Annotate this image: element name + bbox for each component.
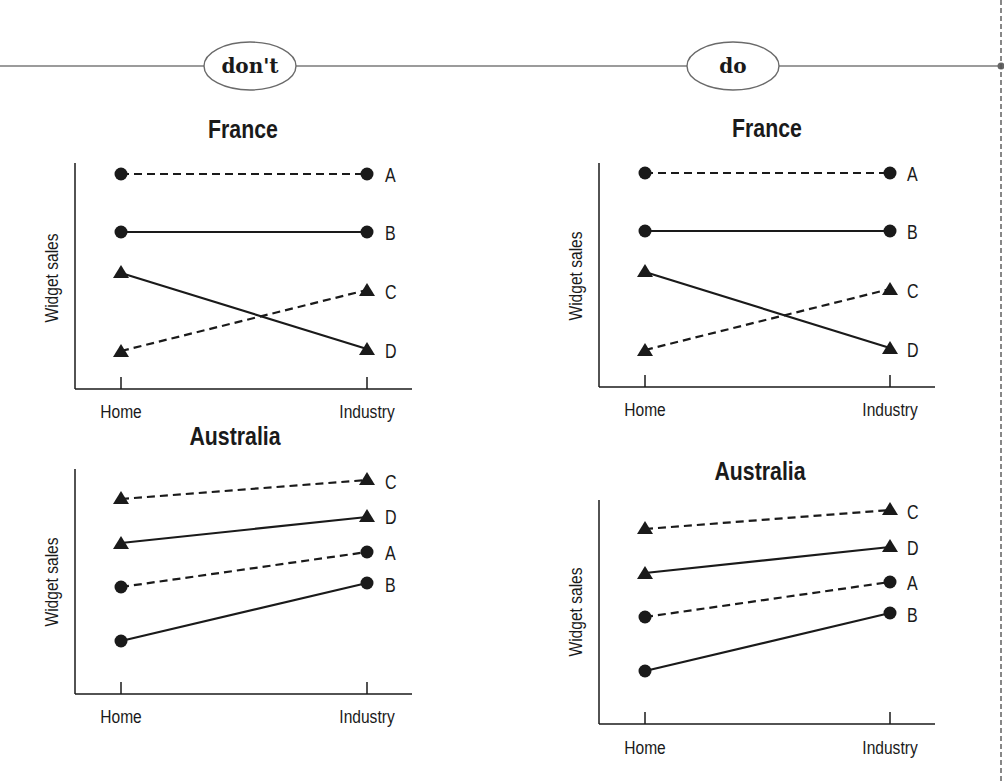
x-tick-label-home: Home — [624, 399, 666, 421]
series-label-b: B — [907, 221, 918, 243]
circle-marker-icon — [884, 576, 897, 589]
figure-canvas: don't do France Widget sales Home Indust… — [0, 0, 1004, 781]
y-axis-label: Widget sales — [565, 567, 587, 656]
circle-marker-icon — [361, 577, 374, 590]
circle-marker-icon — [639, 665, 652, 678]
x-tick-label-industry: Industry — [339, 706, 395, 728]
series-d-line — [645, 272, 890, 348]
series-label-a: A — [907, 572, 918, 594]
circle-marker-icon — [639, 225, 652, 238]
series-c-line — [645, 510, 890, 529]
do-australia-chart: Australia Widget sales Home Industry C D… — [565, 456, 935, 758]
series-label-a: A — [385, 542, 396, 564]
y-axis-label: Widget sales — [41, 537, 63, 626]
series-label-d: D — [907, 537, 919, 559]
series-label-a: A — [907, 163, 918, 185]
chart-title: France — [208, 114, 278, 144]
do-badge: do — [687, 42, 779, 90]
circle-marker-icon — [361, 546, 374, 559]
circle-marker-icon — [115, 635, 128, 648]
triangle-marker-icon — [882, 282, 898, 295]
x-tick-label-home: Home — [624, 737, 666, 759]
chart-title: France — [732, 113, 802, 143]
series-c-line — [121, 480, 367, 499]
series-c-line — [645, 289, 890, 350]
series-d-line — [121, 517, 367, 543]
series-label-c: C — [385, 471, 397, 493]
circle-marker-icon — [361, 168, 374, 181]
circle-marker-icon — [884, 225, 897, 238]
series-c-line — [121, 290, 367, 351]
dont-france-chart: France Widget sales Home Industry A B D … — [41, 114, 412, 422]
header-rule — [0, 63, 1004, 70]
series-label-d: D — [385, 506, 397, 528]
x-tick-label-industry: Industry — [862, 737, 918, 759]
x-tick-label-industry: Industry — [339, 401, 395, 423]
circle-marker-icon — [115, 581, 128, 594]
series-label-c: C — [385, 281, 397, 303]
series-label-c: C — [907, 501, 919, 523]
series-a-line — [121, 552, 367, 587]
series-label-d: D — [907, 339, 919, 361]
y-axis-label: Widget sales — [41, 233, 63, 322]
dont-badge: don't — [204, 42, 296, 90]
series-label-b: B — [385, 222, 396, 244]
x-tick-label-industry: Industry — [862, 399, 918, 421]
y-axis-label: Widget sales — [565, 231, 587, 320]
x-tick-label-home: Home — [100, 401, 142, 423]
triangle-marker-icon — [359, 342, 375, 355]
circle-marker-icon — [639, 611, 652, 624]
dont-label: don't — [221, 54, 279, 78]
series-label-a: A — [385, 164, 396, 186]
series-b-line — [645, 613, 890, 671]
series-label-b: B — [907, 604, 918, 626]
series-d-line — [645, 547, 890, 573]
series-label-c: C — [907, 280, 919, 302]
triangle-marker-icon — [882, 502, 898, 515]
triangle-marker-icon — [359, 283, 375, 296]
triangle-marker-icon — [882, 341, 898, 354]
do-label: do — [719, 54, 746, 78]
circle-marker-icon — [115, 168, 128, 181]
triangle-marker-icon — [637, 264, 653, 277]
circle-marker-icon — [361, 226, 374, 239]
series-label-d: D — [385, 340, 397, 362]
do-france-chart: France Widget sales Home Industry A B D … — [565, 113, 935, 420]
chart-title: Australia — [189, 421, 281, 451]
triangle-marker-icon — [359, 472, 375, 485]
chart-title: Australia — [714, 456, 806, 486]
triangle-marker-icon — [882, 539, 898, 552]
circle-marker-icon — [639, 167, 652, 180]
series-b-line — [121, 583, 367, 641]
series-d-line — [121, 273, 367, 349]
series-label-b: B — [385, 574, 396, 596]
triangle-marker-icon — [359, 509, 375, 522]
series-a-line — [645, 582, 890, 617]
circle-marker-icon — [884, 167, 897, 180]
triangle-marker-icon — [113, 265, 129, 278]
circle-marker-icon — [115, 226, 128, 239]
circle-marker-icon — [884, 607, 897, 620]
x-tick-label-home: Home — [100, 706, 142, 728]
dont-australia-chart: Australia Widget sales Home Industry C D… — [41, 421, 412, 727]
